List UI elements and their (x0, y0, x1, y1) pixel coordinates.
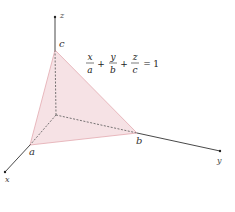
x-axis-label: x (5, 175, 10, 184)
y-axis-label: y (216, 156, 222, 165)
eq-equals: = (143, 59, 151, 69)
z-axis-tip-icon (54, 16, 56, 18)
plane-equation: x a + y b + z c = 1 (86, 52, 159, 75)
x-axis-tip-icon (4, 171, 6, 173)
eq-plus-1: + (97, 59, 105, 69)
a-intercept-label: a (29, 146, 35, 157)
eq-rhs: 1 (153, 59, 159, 69)
eq-num-1: x (87, 52, 92, 62)
eq-num-2: y (109, 52, 116, 62)
plane-diagram: z x y c a b x a + y b + z c = 1 (0, 0, 235, 212)
y-axis-tip-icon (219, 150, 221, 152)
b-intercept-label: b (136, 135, 142, 146)
c-intercept-label: c (59, 38, 65, 49)
axis-arrowheads (4, 16, 221, 173)
eq-num-3: z (132, 52, 138, 62)
eq-den-1: a (87, 65, 92, 75)
y-axis (137, 133, 220, 151)
eq-plus-2: + (120, 59, 128, 69)
x-axis (5, 145, 30, 172)
axes (5, 17, 220, 172)
z-axis-label: z (59, 11, 65, 20)
eq-den-2: b (110, 65, 116, 75)
eq-den-3: c (132, 65, 137, 75)
